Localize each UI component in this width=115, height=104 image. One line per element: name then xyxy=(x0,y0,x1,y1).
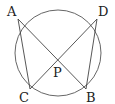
label-c: C xyxy=(19,90,29,104)
chord-cd xyxy=(30,19,97,89)
circle xyxy=(15,10,101,96)
label-b: B xyxy=(86,90,96,104)
label-d: D xyxy=(98,4,108,19)
segment-db xyxy=(86,19,97,89)
label-p: P xyxy=(53,65,62,80)
geometry-diagram: A D C B P xyxy=(0,0,115,104)
label-a: A xyxy=(6,4,17,19)
